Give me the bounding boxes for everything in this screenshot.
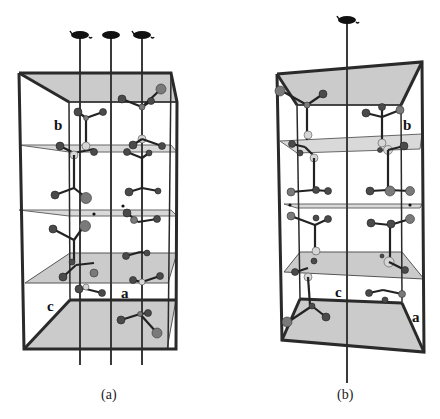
crystal-structure-figure: b a c (0, 0, 440, 419)
axis-label-c-b: c (335, 284, 342, 300)
axis-label-a-b: a (412, 309, 420, 325)
panel-b: b c a (275, 16, 424, 383)
screw-axis-symbol-icon (102, 31, 120, 39)
panel-a-caption: (a) (101, 387, 117, 403)
screw-axis-symbol-icon (337, 16, 359, 24)
screw-axis-symbol-icon (132, 31, 154, 39)
axis-label-b-b: b (403, 117, 411, 133)
panel-a: b a c (19, 31, 177, 365)
axis-label-c-a: c (47, 298, 54, 314)
panel-b-caption: (b) (337, 387, 353, 403)
mid-plane-upper-a (19, 145, 177, 152)
screw-axis-symbol-icon (70, 31, 92, 39)
axis-label-b-a: b (54, 117, 62, 133)
mid-plane-center-a (19, 210, 177, 216)
axis-label-a-a: a (121, 285, 129, 301)
